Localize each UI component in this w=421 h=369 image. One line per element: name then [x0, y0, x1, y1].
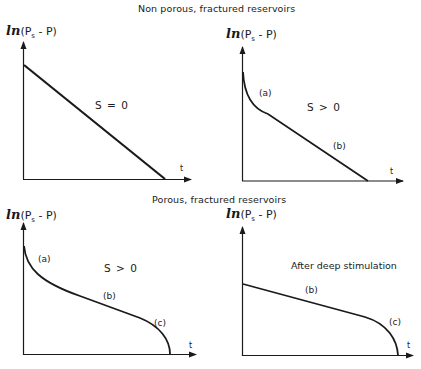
condition-top-left: S = 0 — [95, 99, 129, 111]
x-axis-label-top-left: t — [180, 164, 183, 173]
panel-top-right — [242, 47, 403, 181]
y-axis-label-bottom-left: ln(Ps - P) — [6, 207, 57, 224]
decline-curve — [24, 65, 165, 179]
x-axis-label-top-right: t — [390, 167, 393, 176]
x-axis-label-bottom-left: t — [189, 341, 192, 350]
segment-label-a: (a) — [38, 254, 51, 264]
y-axis-label-bottom-right: ln(Ps - P) — [226, 206, 277, 223]
segment-label-b: (b) — [333, 141, 346, 151]
segment-label-c: (c) — [389, 317, 401, 327]
y-axis-label-top-left: ln(Ps - P) — [6, 23, 57, 40]
condition-top-right: S > 0 — [307, 101, 341, 113]
segment-label-b: (b) — [305, 285, 318, 295]
panel-bottom-right — [242, 227, 413, 356]
x-axis-label-bottom-right: t — [407, 341, 410, 350]
panel-bottom-left — [23, 223, 196, 355]
condition-bottom-left: S > 0 — [104, 262, 138, 274]
segment-label-a: (a) — [259, 88, 272, 98]
decline-curve — [243, 284, 398, 355]
condition-bottom-right: After deep stimulation — [291, 260, 397, 271]
segment-label-c: (c) — [154, 318, 166, 328]
segment-label-b: (b) — [103, 291, 116, 301]
diagram-canvas — [0, 0, 421, 369]
y-axis-label-top-right: ln(Ps - P) — [226, 26, 277, 43]
